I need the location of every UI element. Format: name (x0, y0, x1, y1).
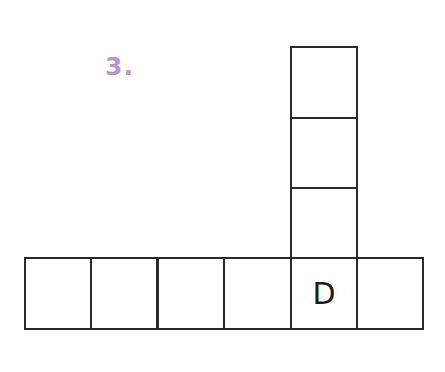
crossword-cell-h1[interactable] (24, 257, 92, 330)
crossword-cell-h6[interactable] (356, 257, 424, 330)
puzzle-number: 3. (105, 52, 134, 81)
crossword-cell-h2[interactable] (90, 257, 158, 330)
crossword-cell-h4[interactable] (223, 257, 292, 330)
crossword-cell-h3[interactable] (157, 257, 225, 330)
crossword-cell-v2[interactable] (290, 117, 358, 189)
crossword-cell-v1[interactable] (290, 46, 358, 119)
crossword-cell-v3[interactable] (290, 187, 358, 259)
crossword-cell-h5-intersect[interactable]: D (290, 257, 358, 330)
